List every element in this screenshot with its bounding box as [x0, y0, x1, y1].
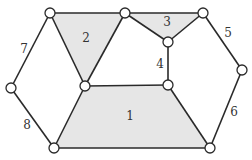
node-C: [198, 8, 208, 18]
node-I: [49, 143, 59, 153]
node-F: [6, 83, 16, 93]
edge-label: 7: [20, 42, 28, 56]
edge-F-I: [11, 88, 54, 148]
node-H: [163, 80, 173, 90]
node-A: [45, 8, 55, 18]
edge-label: 8: [23, 118, 31, 132]
node-J: [205, 143, 215, 153]
face-label: 1: [126, 109, 134, 123]
edge-label: 5: [224, 26, 232, 40]
edge-G-H: [85, 85, 168, 86]
node-E: [237, 65, 247, 75]
edge-label: 4: [156, 57, 164, 71]
edge-A-F: [11, 13, 50, 88]
node-D: [163, 37, 173, 47]
node-G: [80, 81, 90, 91]
node-B: [120, 8, 130, 18]
region-labels: 12345678: [20, 15, 238, 132]
planar-graph-diagram: 12345678: [0, 0, 252, 160]
edge-C-E: [203, 13, 242, 70]
face-2: [50, 13, 125, 86]
face-label: 3: [163, 15, 171, 29]
shaded-faces: [50, 13, 210, 148]
face-label: 2: [82, 31, 90, 45]
edge-label: 6: [230, 105, 238, 119]
